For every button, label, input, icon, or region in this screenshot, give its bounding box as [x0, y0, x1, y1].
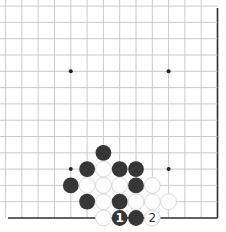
white-stone [79, 178, 95, 194]
white-stone [112, 178, 128, 194]
black-stone [112, 161, 128, 177]
black-stone [96, 145, 112, 161]
move-number-label: 2 [148, 211, 156, 225]
black-stone [128, 161, 144, 177]
star-point [167, 167, 171, 171]
black-stone [79, 161, 95, 177]
star-point [69, 69, 73, 73]
white-stone [144, 178, 160, 194]
black-stone [128, 178, 144, 194]
white-stone: 2 [144, 210, 160, 226]
go-board: 12 [0, 0, 226, 232]
black-stone [63, 178, 79, 194]
white-stone [96, 210, 112, 226]
black-stone [79, 194, 95, 210]
black-stone [128, 210, 144, 226]
white-stone [161, 194, 177, 210]
move-number-label: 1 [116, 211, 124, 225]
black-stone [112, 194, 128, 210]
white-stone [96, 161, 112, 177]
black-stone: 1 [112, 210, 128, 226]
white-stone [96, 178, 112, 194]
white-stone [144, 194, 160, 210]
star-point [167, 69, 171, 73]
white-stone [96, 194, 112, 210]
star-point [69, 167, 73, 171]
white-stone [128, 194, 144, 210]
